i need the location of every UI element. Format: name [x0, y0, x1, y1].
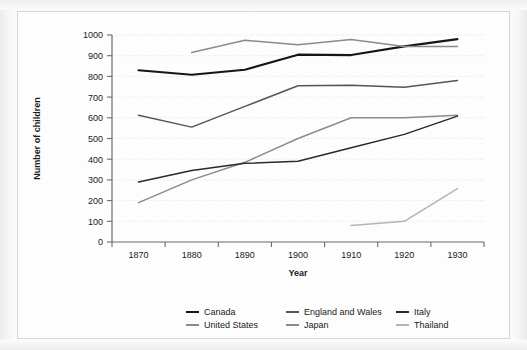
- x-axis-tick-label: 1900: [288, 250, 308, 260]
- x-axis-tick-label: 1930: [447, 250, 467, 260]
- legend-label-japan: Japan: [304, 320, 329, 330]
- y-axis-tick-labels: 01002003004005006007008009001000: [83, 30, 103, 247]
- y-axis-tick-label: 500: [88, 134, 103, 144]
- y-axis-tick-label: 600: [88, 113, 103, 123]
- y-axis-tick-label: 1000: [83, 30, 103, 40]
- gridlines: [112, 35, 484, 221]
- y-axis-ticks: [107, 35, 112, 242]
- x-axis-tick-label: 1910: [341, 250, 361, 260]
- figure-container: 01002003004005006007008009001000 1870188…: [0, 0, 527, 350]
- y-axis-tick-label: 0: [98, 237, 103, 247]
- y-axis-tick-label: 700: [88, 93, 103, 103]
- chart-legend: CanadaEngland and WalesItalyUnited State…: [186, 307, 449, 330]
- data-series-group: [139, 39, 458, 225]
- legend-label-england-and-wales: England and Wales: [304, 307, 382, 317]
- y-axis-tick-label: 900: [88, 51, 103, 61]
- x-axis-tick-label: 1890: [235, 250, 255, 260]
- x-axis-title: Year: [288, 268, 308, 278]
- y-axis-tick-label: 200: [88, 196, 103, 206]
- series-line-thailand: [351, 189, 457, 226]
- series-line-united-states: [192, 40, 458, 53]
- y-axis-tick-label: 800: [88, 72, 103, 82]
- legend-label-thailand: Thailand: [414, 320, 449, 330]
- legend-label-united-states: United States: [204, 320, 259, 330]
- legend-label-italy: Italy: [414, 307, 431, 317]
- paper-edge-bottom: [0, 340, 527, 350]
- legend-label-canada: Canada: [204, 307, 236, 317]
- y-axis-tick-label: 100: [88, 217, 103, 227]
- series-line-england-and-wales: [139, 81, 458, 128]
- chart-panel: 01002003004005006007008009001000 1870188…: [17, 11, 510, 339]
- paper-edge-right: [511, 0, 527, 350]
- paper-edge-top: [0, 0, 527, 10]
- x-axis-tick-label: 1920: [394, 250, 414, 260]
- y-axis-tick-label: 400: [88, 155, 103, 165]
- x-axis-tick-labels: 1870188018901900191019201930: [129, 250, 468, 260]
- paper-edge-left: [0, 0, 14, 350]
- x-axis-tick-label: 1880: [182, 250, 202, 260]
- y-axis-tick-label: 300: [88, 175, 103, 185]
- y-axis-title: Number of children: [32, 97, 42, 180]
- x-axis-tick-label: 1870: [129, 250, 149, 260]
- line-chart: 01002003004005006007008009001000 1870188…: [18, 12, 509, 338]
- x-axis-ticks: [112, 242, 484, 247]
